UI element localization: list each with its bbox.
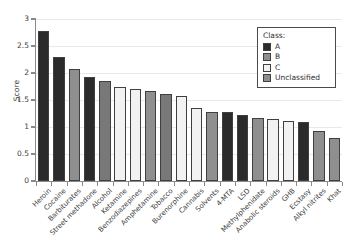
bar [191, 108, 202, 181]
x-tick-mark [220, 182, 221, 186]
legend-swatch [263, 74, 271, 82]
legend-title: Class: [263, 32, 330, 40]
x-tick-mark [204, 182, 205, 186]
bar [176, 96, 187, 181]
x-tick-mark [342, 182, 343, 186]
x-tick-mark [174, 182, 175, 186]
legend-item: B [263, 53, 330, 61]
y-tick-label: 1.5 [0, 95, 29, 104]
legend: Class: ABCUnclassified [257, 27, 336, 88]
x-tick-mark [143, 182, 144, 186]
x-tick-mark [97, 182, 98, 186]
x-tick-mark [281, 182, 282, 186]
x-tick-mark [51, 182, 52, 186]
x-tick-mark [311, 182, 312, 186]
bar [237, 115, 248, 181]
legend-swatch [263, 53, 271, 61]
bar [222, 112, 233, 181]
y-tick-label: 2 [0, 68, 29, 77]
legend-item: C [263, 64, 330, 72]
y-tick-label: 3 [0, 14, 29, 23]
bar [130, 89, 141, 181]
x-tick-mark [113, 182, 114, 186]
bar [84, 77, 95, 181]
bar [145, 91, 156, 181]
x-tick-mark [128, 182, 129, 186]
bar [38, 31, 49, 181]
bar [114, 87, 125, 182]
bar-chart: Score 00.511.522.53 HeroinCocaineBarbitu… [0, 0, 347, 241]
x-tick-mark [36, 182, 37, 186]
legend-entries: ABCUnclassified [263, 43, 330, 83]
legend-item: Unclassified [263, 74, 330, 82]
y-tick-label: 2.5 [0, 41, 29, 50]
y-tick-label: 0 [0, 176, 29, 185]
y-tick-label: 1 [0, 122, 29, 131]
x-tick-label: Khat [326, 187, 343, 204]
bar [283, 121, 294, 181]
legend-label: C [275, 64, 280, 72]
bar [313, 131, 324, 181]
y-tick-label: 0.5 [0, 149, 29, 158]
bar [252, 118, 263, 181]
x-tick-mark [189, 182, 190, 186]
bar [329, 138, 340, 181]
x-tick-mark [327, 182, 328, 186]
legend-swatch [263, 43, 271, 51]
x-tick-mark [82, 182, 83, 186]
bar [267, 119, 278, 181]
x-tick-mark [250, 182, 251, 186]
bar [206, 112, 217, 181]
x-tick-mark [266, 182, 267, 186]
legend-item: A [263, 43, 330, 51]
bar [160, 94, 171, 181]
legend-label: B [275, 53, 280, 61]
legend-label: Unclassified [275, 74, 320, 82]
x-tick-mark [158, 182, 159, 186]
legend-label: A [275, 43, 280, 51]
x-tick-mark [235, 182, 236, 186]
x-tick-mark [67, 182, 68, 186]
x-tick-mark [296, 182, 297, 186]
bar [69, 69, 80, 181]
bar [298, 122, 309, 181]
bar [99, 81, 110, 181]
bar [53, 57, 64, 181]
legend-swatch [263, 64, 271, 72]
